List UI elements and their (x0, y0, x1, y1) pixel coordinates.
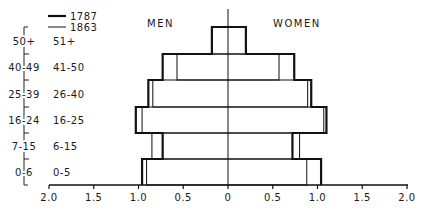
x-axis: 2.01.51.00.500.51.01.52.0 (40, 185, 415, 203)
bars-1787 (136, 27, 327, 185)
legend: 17871863 (48, 11, 97, 33)
x-tick-label: 0.5 (175, 192, 192, 203)
bar-1863-row-5 (147, 159, 307, 185)
bars-1863 (142, 27, 324, 185)
population-pyramid-chart: 17871863 MENWOMEN 50+40-4925-3916-247-15… (0, 0, 425, 214)
x-tick-label: 1.5 (354, 192, 371, 203)
legend-label-1863: 1863 (70, 22, 97, 33)
y-axis: 50+40-4925-3916-247-150-651+41-5026-4016… (8, 27, 84, 185)
x-tick-label: 1.0 (130, 192, 147, 203)
age-label-1863: 51+ (53, 36, 76, 47)
bar-1863-row-2 (153, 80, 308, 107)
age-label-1787: 7-15 (12, 141, 37, 152)
age-label-1787: 16-24 (8, 115, 40, 126)
x-tick-label: 0.5 (264, 192, 281, 203)
legend-label-1787: 1787 (70, 11, 97, 22)
outline-1787-men (136, 27, 228, 185)
age-label-1863: 41-50 (53, 62, 85, 73)
x-tick-label: 2.0 (40, 192, 57, 203)
age-label-1787: 40-49 (8, 62, 40, 73)
x-tick-label: 0 (225, 192, 232, 203)
age-label-1787: 0-6 (15, 167, 33, 178)
x-tick-label: 1.5 (85, 192, 102, 203)
bar-1863-row-3 (142, 107, 324, 133)
bar-1863-row-4 (152, 133, 300, 159)
age-label-1863: 0-5 (53, 167, 71, 178)
outline-1787-women (228, 27, 326, 185)
age-label-1787: 25-39 (8, 89, 40, 100)
x-tick-label: 1.0 (309, 192, 326, 203)
age-label-1863: 26-40 (53, 89, 85, 100)
men-label: MEN (147, 18, 174, 29)
age-label-1787: 50+ (13, 36, 36, 47)
age-label-1863: 16-25 (53, 115, 85, 126)
age-label-1863: 6-15 (53, 141, 78, 152)
x-tick-label: 2.0 (398, 192, 415, 203)
women-label: WOMEN (273, 18, 321, 29)
bar-1863-row-0 (212, 27, 246, 54)
